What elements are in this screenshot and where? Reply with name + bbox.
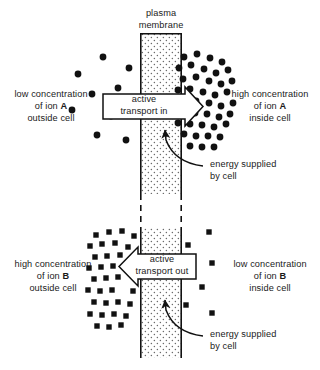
ion-a-particle <box>201 66 208 73</box>
active-transport-out-line2: transport out <box>122 266 202 278</box>
ion-a-outside-label: low concentration of ion A outside cell <box>4 88 98 125</box>
ion-b-particle <box>103 300 108 305</box>
ion-a-particle <box>94 132 101 139</box>
energy-supplied-top-line1: energy supplied <box>210 158 316 170</box>
ion-b-particle <box>131 233 136 238</box>
ion-a-particle <box>180 76 187 83</box>
ion-a-outside-line3: outside cell <box>4 112 98 124</box>
ion-a-outside-symbol: A <box>60 101 67 111</box>
ion-a-particle <box>115 85 122 92</box>
ion-a-particle <box>211 124 218 131</box>
ion-a-particle <box>188 62 195 69</box>
ion-b-inside-line2-prefix: of ion <box>254 271 280 281</box>
ion-b-particle <box>123 313 128 318</box>
plasma-membrane-label: plasma membrane <box>120 7 202 31</box>
plasma-membrane-line2: membrane <box>120 19 202 31</box>
ion-b-particle <box>106 229 111 234</box>
ion-a-particle <box>175 87 182 94</box>
ion-b-particle <box>125 244 130 249</box>
ion-a-particle <box>193 74 200 81</box>
ion-a-particle <box>207 55 214 62</box>
membrane-bottom-segment <box>140 228 182 358</box>
ion-b-inside-label: low concentration of ion B inside cell <box>222 258 318 295</box>
ion-a-particle <box>193 133 200 140</box>
ion-b-particle <box>106 324 111 329</box>
membrane-dashed-break <box>141 194 181 229</box>
ion-b-particle <box>111 311 116 316</box>
ion-a-particle <box>219 59 226 66</box>
diagram-canvas <box>0 0 320 370</box>
ion-b-particle <box>87 311 92 316</box>
ion-b-particle <box>94 323 99 328</box>
ion-b-particle <box>206 229 211 234</box>
energy-supplied-bottom-line2: by cell <box>210 340 316 352</box>
ion-b-outside-label: high concentration of ion B outside cell <box>4 258 102 295</box>
ion-a-particle <box>175 120 182 127</box>
ion-a-inside-line2-prefix: of ion <box>254 101 280 111</box>
ion-b-particle <box>185 242 190 247</box>
plasma-membrane-line1: plasma <box>120 7 202 19</box>
ion-a-particle <box>194 51 201 58</box>
ion-a-particle <box>225 67 232 74</box>
ion-b-inside-line3: inside cell <box>222 282 318 294</box>
ion-b-outside-line2: of ion B <box>4 270 102 282</box>
ion-a-particle <box>199 122 206 129</box>
ion-a-particle <box>187 143 194 150</box>
ion-a-particle <box>181 131 188 138</box>
ion-a-particle <box>123 137 130 144</box>
ion-b-outside-line3: outside cell <box>4 282 102 294</box>
active-transport-in-line1: active <box>104 94 184 106</box>
ion-a-particle <box>126 65 133 72</box>
ion-b-particle <box>87 243 92 248</box>
ion-a-particle <box>204 111 211 118</box>
ion-b-particle <box>109 287 114 292</box>
ion-a-inside-line2: of ion A <box>222 100 318 112</box>
ion-a-inside-label: high concentration of ion A inside cell <box>222 88 318 125</box>
ion-b-inside-symbol: B <box>279 271 286 281</box>
energy-supplied-bottom-line1: energy supplied <box>210 328 316 340</box>
ion-b-particle <box>99 241 104 246</box>
ion-b-particle <box>199 284 204 289</box>
active-transport-out-label: active transport out <box>122 254 202 277</box>
ion-b-particle <box>110 263 115 268</box>
ion-b-particle <box>127 301 132 306</box>
ion-b-particle <box>119 228 124 233</box>
ion-a-particle <box>229 78 236 85</box>
ion-a-particle <box>206 100 213 107</box>
ion-a-outside-line1: low concentration <box>4 88 98 100</box>
ion-b-particle <box>118 322 123 327</box>
energy-supplied-label-top: energy supplied by cell <box>210 158 316 182</box>
active-transport-out-line1: active <box>122 254 202 266</box>
ion-a-particle <box>75 71 82 78</box>
ion-a-particle <box>218 81 225 88</box>
ion-a-particle <box>211 144 218 151</box>
ion-a-particle <box>217 134 224 141</box>
ion-a-inside-symbol: A <box>279 101 286 111</box>
ion-a-particle <box>100 54 107 61</box>
ion-a-outside-line2: of ion A <box>4 100 98 112</box>
ion-a-particle <box>181 54 188 61</box>
ion-a-particle <box>206 78 213 85</box>
ion-b-particle <box>209 260 214 265</box>
energy-supplied-top-line2: by cell <box>210 170 316 182</box>
active-transport-in-label: active transport in <box>104 94 184 117</box>
ion-b-particle <box>112 240 117 245</box>
ion-a-inside-line3: inside cell <box>222 112 318 124</box>
ion-b-particle <box>99 312 104 317</box>
ion-b-inside-line2: of ion B <box>222 270 318 282</box>
ion-b-particle <box>104 253 109 258</box>
ion-b-particle <box>209 310 214 315</box>
ion-a-particle <box>205 133 212 140</box>
energy-supplied-label-bottom: energy supplied by cell <box>210 328 316 352</box>
ion-b-particle <box>103 275 108 280</box>
ion-a-particle <box>200 89 207 96</box>
ion-a-particle <box>212 92 219 99</box>
ion-b-outside-line1: high concentration <box>4 258 102 270</box>
ion-b-outside-symbol: B <box>62 271 69 281</box>
ion-b-particle <box>93 232 98 237</box>
ion-a-particle <box>213 70 220 77</box>
ion-b-inside-line1: low concentration <box>222 258 318 270</box>
ion-b-particle <box>115 274 120 279</box>
ion-b-outside-line2-prefix: of ion <box>37 271 63 281</box>
ion-a-inside-line1: high concentration <box>222 88 318 100</box>
